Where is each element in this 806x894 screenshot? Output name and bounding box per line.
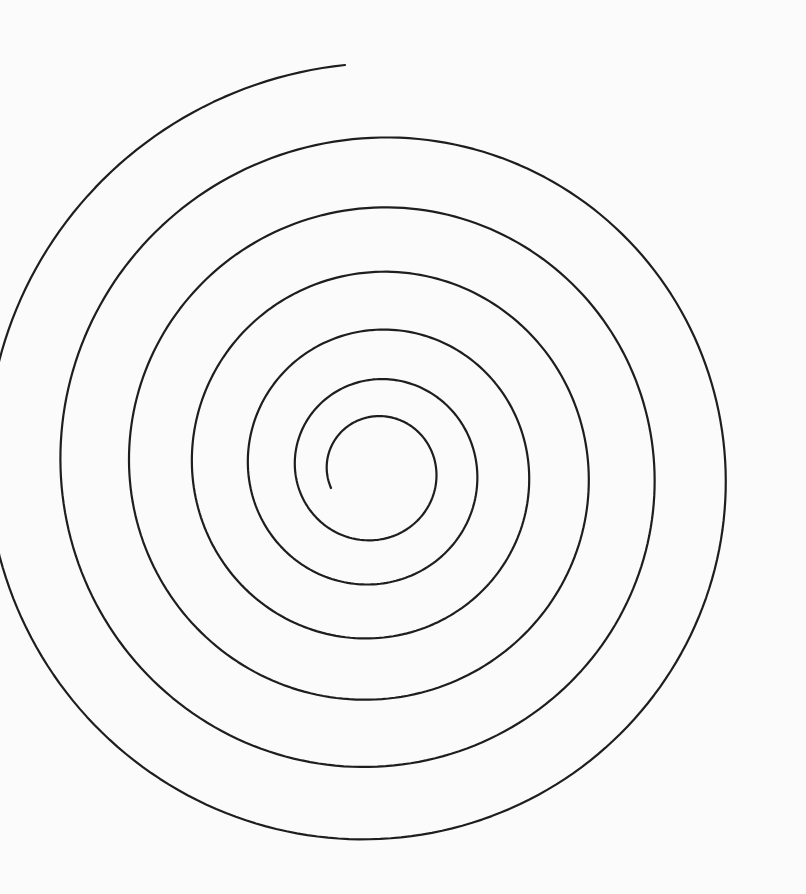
spiral-canvas xyxy=(0,0,806,894)
spiral-stroke xyxy=(0,65,726,839)
